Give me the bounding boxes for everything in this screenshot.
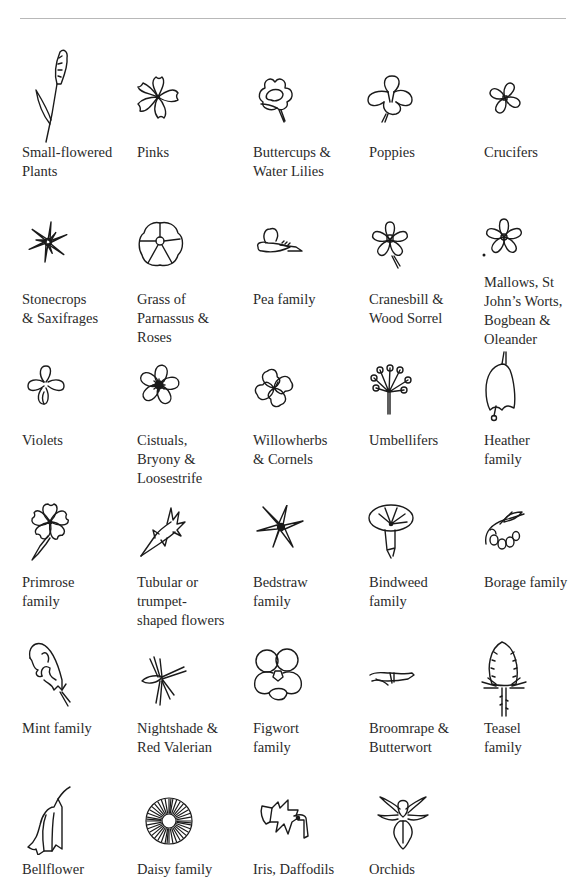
cistus-icon [135,361,185,413]
small-flowered-spike-icon [24,44,74,144]
family-label: Willowherbs & Cornels [253,431,327,469]
family-label: Bedstraw family [253,573,308,611]
family-label: Daisy family [137,860,212,879]
family-label: Heather family [484,431,530,469]
header-rule [20,18,566,19]
family-label: Pea family [253,290,315,309]
family-label: Buttercups & Water Lilies [253,143,331,181]
orchid-icon [376,793,430,851]
heather-bell-icon [480,350,520,422]
family-label: Grass of Parnassus & Roses [137,290,209,347]
family-label: Crucifers [484,143,538,162]
mint-lipped-icon [22,640,72,710]
family-label: Umbellifers [369,431,438,450]
iris-daffodil-icon [258,796,312,842]
family-label: Teasel family [484,719,522,757]
family-label: Bellflower [22,860,84,879]
family-label: Orchids [369,860,415,879]
teasel-icon [480,638,528,718]
pea-flower-icon [252,225,308,261]
family-label: Cranesbill & Wood Sorrel [369,290,444,328]
cranesbill-icon [366,218,416,270]
family-label: Broomrape & Butterwort [369,719,449,757]
crucifer-icon [484,78,526,120]
family-label: Figwort family [253,719,299,757]
broomrape-icon [368,667,416,689]
umbel-icon [366,364,416,416]
pink-flower-icon [132,73,184,123]
family-label: Iris, Daffodils [253,860,334,879]
family-label: Pinks [137,143,169,162]
family-label: Poppies [369,143,415,162]
rose-icon [136,219,186,269]
stonecrop-star-icon [24,218,74,268]
family-label: Mint family [22,719,92,738]
poppy-icon [364,72,416,124]
bindweed-trumpet-icon [367,502,415,560]
nightshade-icon [138,655,190,707]
daisy-icon [144,796,194,846]
primrose-icon [24,502,74,564]
family-label: Nightshade & Red Valerian [137,719,218,757]
mallow-icon [480,215,526,263]
family-label: Cistuals, Bryony & Loosestrife [137,431,202,488]
family-label: Stonecrops & Saxifrages [22,290,98,328]
borage-icon [482,510,530,556]
family-label: Tubular or trumpet- shaped flowers [137,573,224,630]
buttercup-icon [253,74,299,124]
figwort-icon [253,647,303,705]
tubular-flower-icon [137,502,189,558]
violet-icon [24,362,68,410]
family-label: Bindweed family [369,573,428,611]
family-label: Mallows, St John’s Worts, Bogbean & Olea… [484,273,562,349]
family-label: Borage family [484,573,567,592]
willowherb-icon [252,366,298,412]
bellflower-icon [24,785,74,855]
bedstraw-star-icon [255,505,305,553]
family-label: Primrose family [22,573,74,611]
family-label: Violets [22,431,63,450]
family-label: Small-flowered Plants [22,143,112,181]
